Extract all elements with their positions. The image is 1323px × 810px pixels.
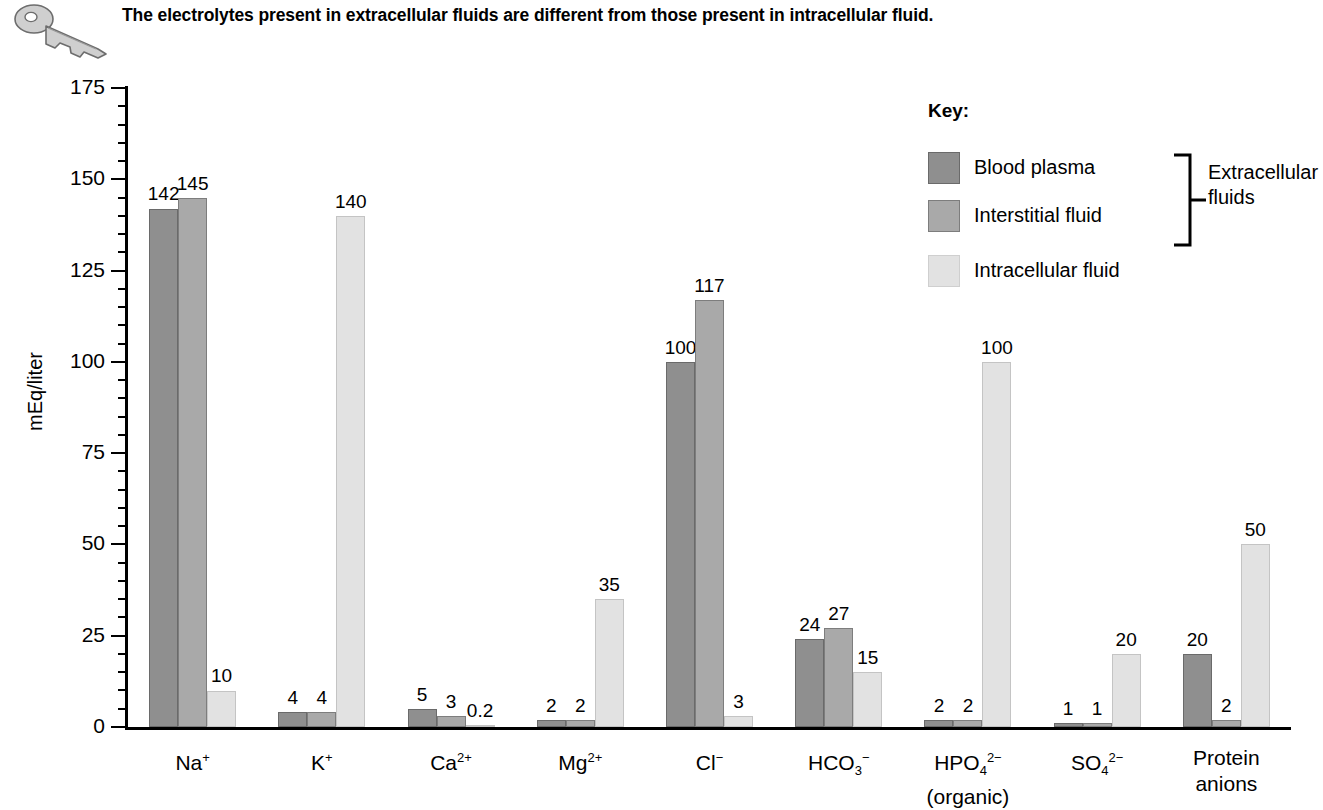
bar [666, 362, 695, 727]
bar [566, 720, 595, 727]
bar [982, 362, 1011, 727]
bar [724, 716, 753, 727]
bar [924, 720, 953, 727]
legend-label-interstitial-fluid: Interstitial fluid [974, 204, 1102, 227]
category-label: Proteinanions [1136, 745, 1316, 797]
bar [336, 216, 365, 727]
extracellular-fluids-line1: Extracellular [1208, 160, 1323, 185]
bar [795, 639, 824, 727]
bar-value-label: 50 [1225, 519, 1285, 541]
legend-swatch-blood-plasma [928, 152, 960, 184]
bar-value-label: 27 [809, 603, 869, 625]
category-label-line1: Protein [1136, 745, 1316, 771]
bar-value-label: 35 [579, 574, 639, 596]
legend-label-blood-plasma: Blood plasma [974, 156, 1095, 179]
bar-value-label: 10 [192, 665, 252, 687]
legend-label-intracellular-fluid: Intracellular fluid [974, 259, 1120, 282]
bar-value-label: 3 [709, 691, 769, 713]
chart-legend: Key: Blood plasma Interstitial fluid Int… [920, 100, 1300, 300]
bar [307, 712, 336, 727]
legend-swatch-intracellular-fluid [928, 255, 960, 287]
bar-value-label: 20 [1096, 629, 1156, 651]
bar [853, 672, 882, 727]
bar-value-label: 0.2 [450, 700, 510, 722]
bar [537, 720, 566, 727]
bar [1083, 723, 1112, 727]
bar [953, 720, 982, 727]
bar [149, 209, 178, 728]
bar [466, 725, 495, 728]
bar [1241, 544, 1270, 727]
legend-swatch-interstitial-fluid [928, 200, 960, 232]
bar [824, 628, 853, 727]
bar-value-label: 140 [321, 191, 381, 213]
bar-value-label: 100 [967, 337, 1027, 359]
category-label-line2: anions [1136, 771, 1316, 797]
bar [278, 712, 307, 727]
bar [595, 599, 624, 727]
extracellular-bracket-icon [1170, 152, 1210, 248]
category-label-line2: (organic) [878, 784, 1058, 810]
bar [207, 691, 236, 728]
extracellular-fluids-line2: fluids [1208, 185, 1323, 210]
bar [1112, 654, 1141, 727]
legend-title: Key: [928, 100, 969, 122]
bar [695, 300, 724, 727]
bar [1212, 720, 1241, 727]
bar-value-label: 145 [163, 173, 223, 195]
bar-value-label: 20 [1167, 629, 1227, 651]
bar [178, 198, 207, 727]
bar-value-label: 15 [838, 647, 898, 669]
bar [1054, 723, 1083, 727]
extracellular-fluids-label: Extracellular fluids [1208, 160, 1323, 210]
bar-value-label: 117 [680, 275, 740, 297]
